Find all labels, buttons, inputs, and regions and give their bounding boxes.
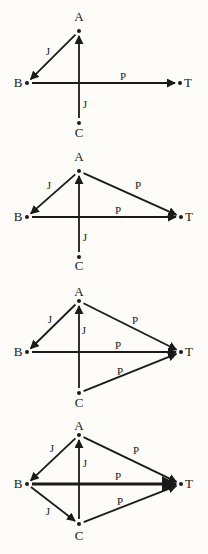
edge-a-to-t (84, 173, 177, 215)
edge-a-to-t (83, 303, 176, 350)
edge-label: J (83, 98, 88, 110)
node-a-label: A (74, 9, 84, 24)
edge-b-to-c (31, 487, 75, 521)
node-t-label: T (184, 75, 192, 90)
edge-a-to-b (31, 305, 76, 349)
edge-label: J (46, 45, 51, 57)
edge-label: J (47, 179, 52, 191)
edge-label: P (115, 339, 121, 351)
node-b-dot (25, 215, 29, 219)
node-b-label: B (14, 476, 23, 491)
edge-label: P (120, 70, 126, 82)
edge-label: P (135, 179, 141, 191)
node-t-dot (178, 81, 182, 85)
edge-label: P (117, 365, 123, 377)
node-a-dot (77, 29, 81, 33)
edge-label: P (115, 204, 121, 216)
edge-label: P (117, 495, 123, 507)
node-a-dot (77, 433, 81, 437)
node-c-label: C (75, 395, 84, 410)
node-b-label: B (14, 75, 23, 90)
edge-c-to-t (84, 486, 177, 522)
edge-label: J (83, 457, 88, 469)
node-a-label: A (74, 149, 84, 164)
edge-c-to-t (84, 354, 177, 391)
node-t-label: T (185, 209, 193, 224)
panel-1: JPJABTC (14, 9, 192, 140)
edge-label: J (46, 505, 51, 517)
node-b-dot (25, 81, 29, 85)
node-t-label: T (185, 344, 193, 359)
edge-label: J (48, 313, 53, 325)
node-b-label: B (14, 344, 23, 359)
node-t-dot (179, 350, 183, 354)
node-a-label: A (74, 418, 84, 433)
node-a-label: A (74, 284, 84, 299)
node-b-label: B (14, 209, 23, 224)
node-c-dot (77, 522, 81, 526)
edge-a-to-b (31, 35, 76, 80)
panel-2: JPPJABTC (14, 149, 193, 273)
node-c-label: C (75, 125, 84, 140)
edge-label: P (133, 444, 139, 456)
edge-label: J (82, 324, 87, 336)
node-b-dot (25, 482, 29, 486)
edge-label: J (50, 442, 55, 454)
node-a-dot (77, 299, 81, 303)
edge-a-to-t (84, 437, 177, 482)
node-t-dot (179, 215, 183, 219)
node-t-label: T (185, 476, 193, 491)
node-t-dot (179, 482, 183, 486)
node-c-label: C (75, 258, 84, 273)
node-c-label: C (75, 528, 84, 543)
node-b-dot (25, 350, 29, 354)
edge-label: P (132, 314, 138, 326)
edge-label: P (115, 470, 121, 482)
node-a-dot (77, 169, 81, 173)
edge-label: J (83, 231, 88, 243)
panel-3: JPPJPABTC (14, 284, 193, 410)
edge-a-to-b (31, 174, 76, 213)
network-diagram: JPJABTCJPPJABTCJPPJPABTCJPPJPJABTC (0, 0, 208, 554)
panel-4: JPPJPJABTC (14, 418, 193, 543)
